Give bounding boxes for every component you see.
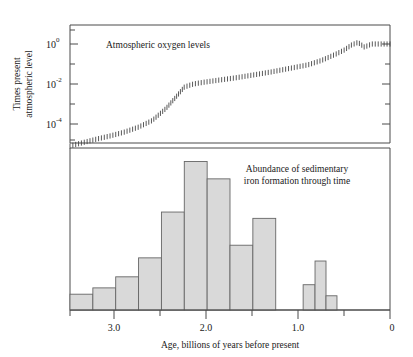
top-panel-annotation: Atmospheric oxygen levels [106, 40, 210, 50]
svg-text:10: 10 [46, 119, 56, 130]
iron-formation-bar [230, 245, 253, 310]
ytick-label-1e0: 10 0 [46, 36, 60, 50]
iron-formation-bar [139, 258, 162, 310]
x-axis: 3.0 2.0 1.0 0 Age, billions of years bef… [70, 310, 395, 350]
bottom-panel-annotation-line1: Abundance of sedimentary [246, 164, 349, 174]
oxygen-curve-hatched-band [70, 40, 390, 148]
iron-formation-bar [315, 261, 326, 310]
xtick-label-3.0: 3.0 [108, 322, 121, 333]
ytick-exponent-0: 0 [56, 36, 60, 44]
ytick-mantissa-1: 10 [46, 79, 56, 90]
ytick-label-1e-2: 10 -2 [46, 76, 62, 90]
bottom-panel: Abundance of sedimentary iron formation … [70, 148, 390, 310]
ytick-mantissa-0: 10 [46, 39, 56, 50]
iron-formation-bar [161, 212, 184, 310]
y-axis-label-line2: atmospheric level [24, 50, 34, 118]
ytick-exponent-1: -2 [56, 76, 62, 84]
iron-formation-bar [184, 161, 207, 310]
svg-text:-4: -4 [56, 116, 62, 124]
top-panel: 10 0 10 -2 10 -4 Times present atmospher… [12, 25, 390, 149]
ytick-mantissa-2: 10 [46, 119, 56, 130]
y-axis-label-line1: Times present [12, 57, 22, 111]
iron-formation-bar [326, 296, 337, 310]
iron-formation-bar [116, 277, 139, 310]
xtick-label-1.0: 1.0 [292, 322, 305, 333]
figure-container: 10 0 10 -2 10 -4 Times present atmospher… [0, 0, 413, 357]
iron-formation-bar [253, 218, 276, 310]
iron-formation-bar [303, 285, 315, 310]
svg-text:10: 10 [46, 79, 56, 90]
x-axis-label: Age, billions of years before present [161, 340, 300, 350]
svg-text:0: 0 [56, 36, 60, 44]
ytick-label-1e-4: 10 -4 [46, 116, 62, 130]
iron-formation-bar [70, 294, 93, 310]
oxygen-iron-figure: 10 0 10 -2 10 -4 Times present atmospher… [0, 0, 413, 357]
svg-text:10: 10 [46, 39, 56, 50]
iron-formation-bar [93, 288, 116, 310]
xtick-label-0: 0 [390, 322, 395, 333]
iron-formation-bar [207, 179, 230, 310]
ytick-exponent-2: -4 [56, 116, 62, 124]
svg-text:-2: -2 [56, 76, 62, 84]
xtick-label-2.0: 2.0 [200, 322, 213, 333]
bottom-panel-annotation-line2: iron formation through time [244, 176, 350, 186]
